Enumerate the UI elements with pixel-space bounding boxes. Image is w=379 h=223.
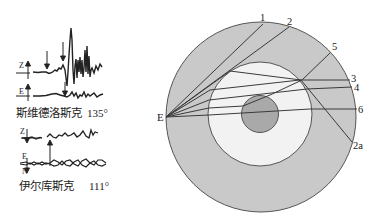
earth-cross-section: E 1 2 5 3 4 6 2a: [157, 12, 363, 212]
station-distance-1: 135°: [87, 107, 108, 119]
component-label-z: Z: [20, 127, 25, 136]
station-name-2: 伊尔库斯克: [19, 179, 75, 193]
ray-label-2: 2: [287, 16, 292, 27]
seismogram-trace-z-continued: [47, 130, 98, 138]
ray-label-6: 6: [358, 104, 363, 115]
epicenter-label: E: [157, 111, 164, 123]
ray-label-5: 5: [332, 41, 337, 52]
seismogram-panel-2: Z E N 伊尔库斯克 111°: [19, 127, 109, 193]
station-name-1: 斯维德洛斯克: [16, 106, 83, 120]
inner-core: [242, 96, 279, 133]
component-label-e: E: [22, 152, 27, 161]
ray-label-1: 1: [260, 12, 265, 23]
component-label-z: Z: [19, 61, 24, 70]
arrival-arrow-p: [45, 51, 50, 69]
figure-canvas: Z E 斯维德洛斯克 135° Z: [0, 0, 379, 223]
component-label-e: E: [19, 87, 24, 96]
seismogram-trace-e: [33, 92, 103, 98]
station-distance-2: 111°: [89, 180, 109, 192]
arrival-arrow-pkp: [61, 42, 66, 61]
seismogram-trace-z: [33, 28, 102, 86]
ray-label-4: 4: [354, 82, 360, 93]
seismogram-panel-1: Z E 斯维德洛斯克 135°: [16, 28, 108, 120]
ray-label-2a: 2a: [353, 140, 363, 151]
